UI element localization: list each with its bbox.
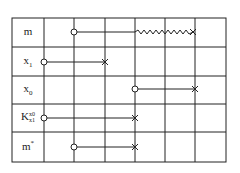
row-label-mstar: m* (12, 139, 44, 152)
row-label-x1: x1 (12, 54, 44, 69)
row-k-lifespan (41, 115, 138, 121)
start-circle-icon (71, 144, 77, 150)
start-circle-icon (71, 29, 77, 35)
row-label-m: m (12, 25, 44, 37)
row-m-lifespan (71, 29, 196, 35)
row-label-x0: x0 (12, 82, 44, 97)
row-label-k: Kx0x1 (12, 110, 44, 123)
start-circle-icon (132, 86, 138, 92)
